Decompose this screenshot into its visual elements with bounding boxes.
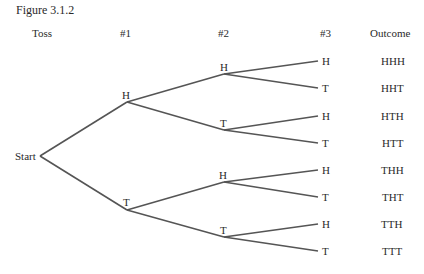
outcome: HHT <box>381 83 404 94</box>
node-l3: H <box>322 165 330 176</box>
edge <box>224 74 318 88</box>
edge <box>40 102 127 156</box>
node-l3: T <box>322 138 329 149</box>
edge <box>40 156 127 210</box>
edge <box>224 237 318 251</box>
edge <box>224 130 318 143</box>
outcome: HHH <box>381 56 405 67</box>
node-l3: T <box>322 246 329 257</box>
node-l1-h: H <box>122 90 130 101</box>
outcome: TTH <box>381 219 402 230</box>
node-l3: T <box>322 83 329 94</box>
node-l1-t: T <box>123 197 130 208</box>
edge <box>224 170 318 182</box>
outcome: HTH <box>381 111 404 122</box>
outcome: TTT <box>382 246 402 257</box>
edge <box>224 182 318 197</box>
outcome: HTT <box>382 138 403 149</box>
edge <box>127 182 224 210</box>
node-l2-h2: H <box>219 170 227 181</box>
edge <box>224 116 318 130</box>
node-l3: H <box>322 56 330 67</box>
node-l3: H <box>322 219 330 230</box>
node-l3: H <box>322 111 330 122</box>
node-l2-t1: T <box>220 118 227 129</box>
edge <box>224 224 318 237</box>
tree-diagram <box>0 0 424 274</box>
node-l3: T <box>322 192 329 203</box>
edge <box>127 210 224 237</box>
edge <box>127 74 224 102</box>
edge <box>127 102 224 130</box>
node-l2-t2: T <box>220 225 227 236</box>
node-l2-h1: H <box>220 62 228 73</box>
outcome: THT <box>382 192 403 203</box>
edge <box>224 61 318 74</box>
outcome: THH <box>381 165 404 176</box>
